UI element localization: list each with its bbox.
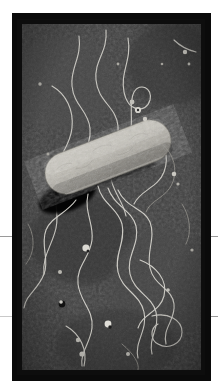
micrograph-image (22, 24, 201, 370)
micrograph-plate-frame (12, 13, 211, 381)
page-canvas (0, 0, 218, 391)
